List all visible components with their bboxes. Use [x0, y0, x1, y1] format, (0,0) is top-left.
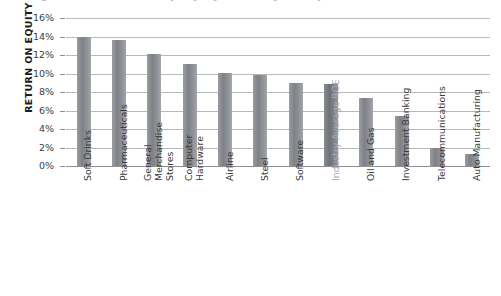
return-on-equity-bar-chart: RETURN ON EQUITY 0%2%4%6%8%10%12%14%16% …: [0, 0, 501, 296]
y-axis-tick-mark: [60, 74, 65, 75]
gridline: [66, 18, 490, 19]
gridline: [66, 148, 490, 149]
gridline: [66, 92, 490, 93]
y-axis-tick-mark: [60, 55, 65, 56]
x-axis-label-group: Soft DrinksPharmaceuticalsGeneralMerchan…: [66, 170, 490, 296]
y-axis-tick-label: 10%: [14, 69, 54, 79]
bar: [253, 75, 267, 166]
y-axis-tick-mark: [60, 111, 65, 112]
gridline: [66, 129, 490, 130]
gridline: [66, 74, 490, 75]
y-axis-tick-label: 14%: [14, 32, 54, 42]
y-axis-tick-label: 4%: [14, 124, 54, 134]
gridline: [66, 166, 490, 167]
y-axis-tick-mark: [60, 37, 65, 38]
y-axis-tick-label: 16%: [14, 13, 54, 23]
y-axis-tick-mark: [60, 166, 65, 167]
plot-area: [66, 18, 490, 166]
y-axis-tick-mark: [60, 129, 65, 130]
y-axis-tick-mark: [60, 18, 65, 19]
y-axis-tick-label: 8%: [14, 87, 54, 97]
gridline: [66, 111, 490, 112]
y-axis-tick-label: 2%: [14, 143, 54, 153]
y-axis-tick-mark: [60, 92, 65, 93]
y-axis-tick-label: 6%: [14, 106, 54, 116]
gridline: [66, 55, 490, 56]
y-axis-tick-mark: [60, 148, 65, 149]
gridline: [66, 37, 490, 38]
y-axis-tick-label: 12%: [14, 50, 54, 60]
y-axis-tick-label: 0%: [14, 161, 54, 171]
